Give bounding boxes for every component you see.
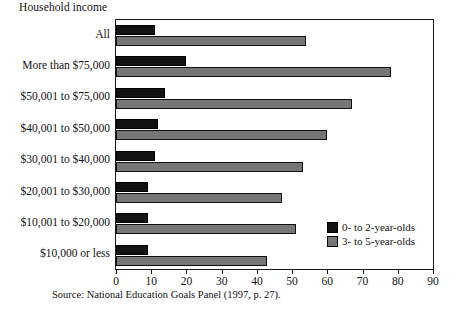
y-axis-tick-label: $50,001 to $75,000 (0, 90, 110, 103)
legend-item: 0- to 2-year-olds (327, 221, 415, 234)
x-axis-tick-label: 50 (286, 275, 298, 287)
legend-swatch (327, 236, 338, 247)
x-axis-tick-label: 90 (427, 275, 439, 287)
bar-group (116, 83, 433, 114)
bar (116, 119, 158, 129)
y-axis-tick-label: $40,001 to $50,000 (0, 122, 110, 135)
bar (116, 151, 155, 161)
bar (116, 130, 327, 140)
y-axis-tick-label: $30,001 to $40,000 (0, 153, 110, 166)
x-axis-tick-label: 10 (145, 275, 157, 287)
x-axis-tick-label: 20 (181, 275, 193, 287)
bar-group (116, 177, 433, 208)
bar (116, 256, 267, 266)
bar (116, 36, 306, 46)
x-axis-tick-mark (257, 270, 258, 274)
x-axis-tick-label: 60 (322, 275, 334, 287)
x-axis-tick-label: 80 (392, 275, 404, 287)
bar (116, 245, 148, 255)
legend-item: 3- to 5-year-olds (327, 235, 415, 248)
legend-label: 3- to 5-year-olds (342, 235, 415, 248)
x-axis-tick-label: 70 (357, 275, 369, 287)
bar (116, 88, 165, 98)
legend-swatch (327, 222, 338, 233)
bar (116, 25, 155, 35)
bar (116, 182, 148, 192)
chart-title: Household income (19, 1, 107, 13)
bar (116, 213, 148, 223)
x-axis-tick-mark (327, 270, 328, 274)
x-axis-tick-mark (222, 270, 223, 274)
legend: 0- to 2-year-olds3- to 5-year-olds (327, 221, 415, 249)
y-axis-tick-label: $10,001 to $20,000 (0, 216, 110, 229)
chart-figure: Household income AllMore than $75,000$50… (0, 0, 457, 311)
y-axis-tick-label: $20,001 to $30,000 (0, 185, 110, 198)
x-axis-tick-label: 40 (251, 275, 263, 287)
y-axis-tick-label: More than $75,000 (0, 59, 110, 72)
bar-group (116, 114, 433, 145)
bar (116, 162, 303, 172)
x-axis-tick-label: 30 (216, 275, 228, 287)
x-axis-tick-mark (363, 270, 364, 274)
legend-label: 0- to 2-year-olds (342, 221, 415, 234)
y-axis-tick-label: All (0, 28, 110, 41)
bar-group (116, 146, 433, 177)
bar (116, 67, 391, 77)
bar (116, 99, 352, 109)
y-axis-tick-label: $10,000 or less (0, 247, 110, 260)
bar (116, 56, 186, 66)
bar-group (116, 20, 433, 51)
x-axis-tick-mark (398, 270, 399, 274)
bar (116, 224, 296, 234)
source-note: Source: National Education Goals Panel (… (52, 289, 281, 300)
x-axis-tick-mark (186, 270, 187, 274)
x-axis-tick-mark (433, 270, 434, 274)
x-axis-tick-label: 0 (113, 275, 119, 287)
x-axis-tick-mark (116, 270, 117, 274)
bar (116, 193, 282, 203)
x-axis-tick-mark (292, 270, 293, 274)
bar-group (116, 51, 433, 82)
x-axis-tick-mark (151, 270, 152, 274)
